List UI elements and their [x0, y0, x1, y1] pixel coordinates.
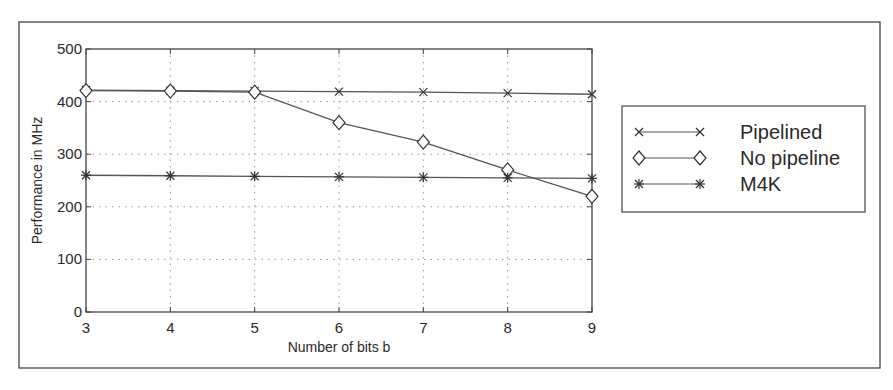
asterisk-marker-icon: [634, 179, 644, 189]
legend: PipelinedNo pipelineM4K: [622, 106, 865, 212]
x-axis-label: Number of bits b: [288, 339, 391, 355]
y-tick-label: 100: [57, 250, 82, 267]
asterisk-marker-icon: [250, 171, 260, 181]
diamond-marker-icon: [333, 116, 345, 130]
legend-label: M4K: [740, 173, 782, 195]
asterisk-marker-icon: [418, 172, 428, 182]
series-pipelined: [82, 86, 596, 98]
x-tick-label: 6: [335, 319, 343, 336]
x-tick-label: 4: [166, 319, 174, 336]
asterisk-marker-icon: [695, 179, 705, 189]
x-tick-label: 5: [250, 319, 258, 336]
asterisk-marker-icon: [334, 172, 344, 182]
y-tick-label: 300: [57, 145, 82, 162]
x-tick-label: 3: [82, 319, 90, 336]
axis-ticks: 34567890100200300400500: [57, 40, 596, 336]
diamond-marker-icon: [164, 84, 176, 98]
y-tick-label: 200: [57, 198, 82, 215]
y-tick-label: 400: [57, 93, 82, 110]
x-tick-label: 8: [503, 319, 511, 336]
diamond-marker-icon: [586, 189, 598, 203]
diamond-marker-icon: [249, 85, 261, 99]
y-tick-label: 0: [74, 303, 82, 320]
asterisk-marker-icon: [165, 171, 175, 181]
asterisk-marker-icon: [503, 173, 513, 183]
series-m4k: [81, 170, 597, 183]
legend-label: Pipelined: [740, 121, 822, 143]
asterisk-marker-icon: [81, 170, 91, 180]
x-tick-label: 7: [419, 319, 427, 336]
x-tick-label: 9: [588, 319, 596, 336]
diamond-marker-icon: [417, 135, 429, 149]
chart: 34567890100200300400500 Number of bits b…: [0, 0, 893, 390]
legend-label: No pipeline: [740, 147, 840, 169]
asterisk-marker-icon: [587, 173, 597, 183]
y-tick-label: 500: [57, 40, 82, 57]
y-axis-label: Performance in MHz: [29, 117, 45, 245]
